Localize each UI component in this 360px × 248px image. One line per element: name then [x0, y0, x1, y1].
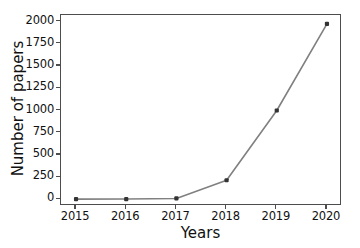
x-axis-tick-label: 2017 [161, 211, 189, 223]
data-point-marker [325, 22, 329, 26]
y-axis-tick-label: 2000 [26, 15, 54, 27]
y-axis-tick-label: 750 [33, 126, 54, 138]
data-point-marker [174, 196, 178, 200]
x-axis-title: Years [60, 225, 341, 242]
y-axis-tick-label: 1000 [26, 104, 54, 116]
x-axis-tick-label: 2019 [262, 211, 290, 223]
x-axis-tick-label: 2015 [61, 211, 89, 223]
data-point-marker [124, 197, 128, 201]
data-point-marker [224, 178, 228, 182]
y-axis-tick-label: 1750 [26, 37, 54, 49]
y-axis-tick-label: 0 [47, 192, 54, 204]
data-point-marker [275, 108, 279, 112]
plot-area [60, 14, 341, 205]
y-axis-title: Number of papers [10, 9, 27, 209]
y-axis-tick-label: 1500 [26, 59, 54, 71]
line-series-svg [61, 15, 342, 206]
chart-figure: 025050075010001250150017502000 201520162… [0, 0, 360, 248]
data-line [76, 24, 327, 199]
y-axis-tick-label: 250 [33, 170, 54, 182]
x-axis-tick-label: 2016 [111, 211, 139, 223]
y-axis-tick-label: 1250 [26, 81, 54, 93]
x-axis-tick-label: 2020 [312, 211, 340, 223]
data-point-marker [74, 197, 78, 201]
x-axis-tick-label: 2018 [211, 211, 239, 223]
y-axis-tick-label: 500 [33, 148, 54, 160]
